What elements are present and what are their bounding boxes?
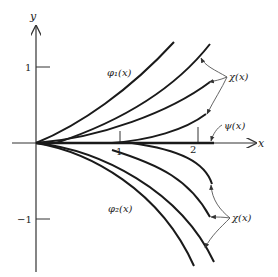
y-tick-label-1: 1 (25, 62, 31, 73)
chi-lower-arrow-2 (211, 217, 230, 218)
chi-upper-arrow-2 (209, 77, 227, 82)
curve-chi-upper-1 (56, 44, 210, 143)
phi2-label: φ₂(x) (108, 203, 133, 214)
x-axis-label: x (258, 137, 265, 150)
psi-arrow (211, 125, 222, 141)
chi-lower-arrow-1 (211, 185, 230, 218)
curve-chi-lower-3 (132, 143, 212, 184)
upper-curves (36, 42, 214, 143)
chi-upper-label: χ(x) (228, 71, 249, 82)
diagram-canvas: y 1 −1 x 1 2 (0, 0, 278, 277)
psi-label: ψ(x) (224, 120, 245, 131)
curve-phi1 (36, 42, 174, 143)
chi-upper-arrow-1 (201, 58, 227, 77)
chi-lower-label: χ(x) (231, 212, 252, 223)
curve-chi-upper-3 (112, 114, 206, 143)
x-tick-label-2: 2 (190, 144, 196, 155)
phi1-label: φ₁(x) (107, 67, 132, 78)
y-tick-label-neg1: −1 (17, 214, 32, 225)
chi-lower-arrow-3 (205, 218, 230, 248)
y-axis: y 1 −1 (17, 10, 50, 272)
solution-curves-diagram: y 1 −1 x 1 2 (0, 0, 278, 277)
y-axis-label: y (29, 10, 37, 23)
